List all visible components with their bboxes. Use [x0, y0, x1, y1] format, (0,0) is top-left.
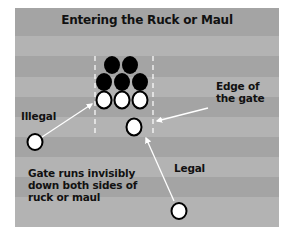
- gate-note-line3: ruck or maul: [28, 191, 137, 203]
- edge-of-gate-arrow: [157, 108, 208, 121]
- gate-note-line2: down both sides of: [28, 179, 137, 191]
- legal-label: Legal: [174, 162, 205, 174]
- edge-of-gate-label: Edge of the gate: [216, 80, 264, 104]
- legal-player: [172, 203, 187, 219]
- gate-note: Gate runs invisibly down both sides of r…: [28, 167, 137, 203]
- illegal-player: [28, 134, 43, 150]
- edge-label-line1: Edge of: [216, 80, 264, 92]
- defending-players: [96, 56, 148, 91]
- attacking-players: [97, 92, 148, 136]
- edge-label-line2: the gate: [216, 92, 264, 104]
- legal-arrow: [146, 138, 174, 201]
- gate-note-line1: Gate runs invisibly: [28, 167, 137, 179]
- illegal-label: Illegal: [21, 110, 56, 122]
